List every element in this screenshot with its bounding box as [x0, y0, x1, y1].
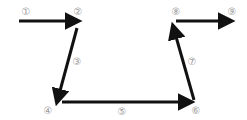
node-label-3: ③ — [73, 57, 82, 67]
node-label-2: ② — [74, 7, 83, 17]
flow-diagram — [0, 0, 247, 120]
node-label-1: ① — [22, 7, 31, 17]
node-label-7: ⑦ — [188, 57, 197, 67]
node-label-4: ④ — [44, 106, 53, 116]
node-label-8: ⑧ — [172, 7, 181, 17]
node-label-9: ⑨ — [228, 7, 237, 17]
node-label-6: ⑥ — [192, 106, 201, 116]
node-label-5: ⑤ — [118, 107, 127, 117]
